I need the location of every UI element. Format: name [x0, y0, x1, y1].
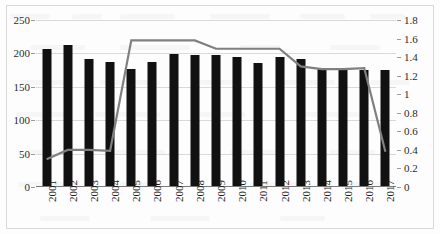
y-axis-right-tick-label: 1.2 — [404, 70, 418, 81]
y-axis-right-tick-label: 1.4 — [404, 52, 418, 63]
y-axis-left-tick-mark — [31, 87, 35, 88]
y-axis-left-tick-label: 0 — [25, 182, 31, 193]
scan-ghost-text — [300, 14, 345, 19]
y-axis-left-tick-label: 250 — [14, 15, 31, 26]
x-axis-label-slot: 2016 — [354, 189, 375, 231]
x-axis-tick-label: 2012 — [280, 180, 291, 202]
x-axis-tick-label: 2013 — [301, 180, 312, 202]
x-axis-label-slot: 2006 — [142, 189, 163, 231]
x-axis-label-slot: 2011 — [248, 189, 269, 231]
y-axis-right-tick-mark — [397, 131, 401, 132]
x-axis-label-slot: 2001 — [36, 189, 57, 231]
scan-ghost-text — [72, 14, 102, 19]
y-axis-right-tick-label: 0.4 — [404, 144, 418, 155]
x-axis-labels: 2001200220032004200520062007200820092010… — [36, 189, 396, 231]
y-axis-right-tick-mark — [397, 187, 401, 188]
x-axis-tick-label: 2008 — [195, 180, 206, 202]
x-axis-label-slot: 2014 — [311, 189, 332, 231]
chart-frame-top — [6, 5, 434, 6]
x-axis-tick-label: 2001 — [47, 180, 58, 202]
y-axis-left-tick-label: 200 — [14, 48, 31, 59]
x-axis-tick-label: 2003 — [89, 180, 100, 202]
x-axis-tick-label: 2015 — [343, 180, 354, 202]
x-axis-label-slot: 2007 — [163, 189, 184, 231]
x-axis-label-slot: 2017 — [375, 189, 396, 231]
y-axis-left-tick-mark — [31, 187, 35, 188]
y-axis-right-tick-mark — [397, 94, 401, 95]
y-axis-right-tick-mark — [397, 20, 401, 21]
chart-container: 050100150200250 00.20.40.60.811.21.41.61… — [0, 0, 440, 234]
plot-area: 050100150200250 00.20.40.60.811.21.41.61… — [36, 20, 396, 187]
y-axis-left-tick-label: 50 — [19, 148, 30, 159]
y-axis-right-tick-label: 0.2 — [404, 163, 418, 174]
y-axis-right-tick-label: 0 — [404, 182, 410, 193]
scan-ghost-text — [370, 14, 405, 19]
chart-frame-left — [6, 5, 7, 229]
y-axis-left-tick-mark — [31, 120, 35, 121]
y-axis-right-tick-mark — [397, 168, 401, 169]
y-axis-right-tick-mark — [397, 113, 401, 114]
y-axis-right-tick-mark — [397, 57, 401, 58]
y-axis-left-tick-label: 150 — [14, 81, 31, 92]
x-axis-tick-label: 2017 — [385, 180, 396, 202]
x-axis-label-slot: 2008 — [184, 189, 205, 231]
scan-ghost-text — [120, 14, 175, 19]
y-axis-right-tick-mark — [397, 150, 401, 151]
y-axis-right-tick-label: 1.6 — [404, 33, 418, 44]
x-axis-label-slot: 2004 — [100, 189, 121, 231]
y-axis-left-tick-mark — [31, 20, 35, 21]
x-axis-tick-label: 2009 — [216, 180, 227, 202]
y-axis-left-tick-mark — [31, 53, 35, 54]
x-axis-label-slot: 2002 — [57, 189, 78, 231]
x-axis-tick-label: 2011 — [258, 180, 269, 202]
x-axis-tick-label: 2006 — [152, 180, 163, 202]
x-axis-label-slot: 2009 — [205, 189, 226, 231]
y-axis-left-tick-label: 100 — [14, 115, 31, 126]
y-axis-right-tick-label: 0.6 — [404, 126, 418, 137]
y-axis-left-tick-mark — [31, 154, 35, 155]
x-axis-label-slot: 2003 — [78, 189, 99, 231]
x-axis-tick-label: 2005 — [131, 180, 142, 202]
scan-ghost-text — [210, 14, 270, 19]
x-axis-tick-label: 2010 — [237, 180, 248, 202]
y-axis-right-tick-mark — [397, 39, 401, 40]
x-axis-tick-label: 2014 — [322, 180, 333, 202]
x-axis-label-slot: 2013 — [290, 189, 311, 231]
y-axis-right-tick-label: 1 — [404, 89, 410, 100]
y-axis-right-tick-mark — [397, 76, 401, 77]
chart-frame-right — [433, 5, 434, 229]
line-series — [36, 20, 396, 187]
x-axis-label-slot: 2010 — [227, 189, 248, 231]
x-axis-label-slot: 2015 — [332, 189, 353, 231]
x-axis-label-slot: 2012 — [269, 189, 290, 231]
x-axis-tick-label: 2016 — [364, 180, 375, 202]
x-axis-tick-label: 2002 — [68, 180, 79, 202]
y-axis-right-tick-label: 0.8 — [404, 107, 418, 118]
line-series-path — [47, 40, 386, 159]
x-axis-label-slot: 2005 — [121, 189, 142, 231]
y-axis-right-tick-label: 1.8 — [404, 15, 418, 26]
x-axis-tick-label: 2004 — [110, 180, 121, 202]
x-axis-tick-label: 2007 — [174, 180, 185, 202]
